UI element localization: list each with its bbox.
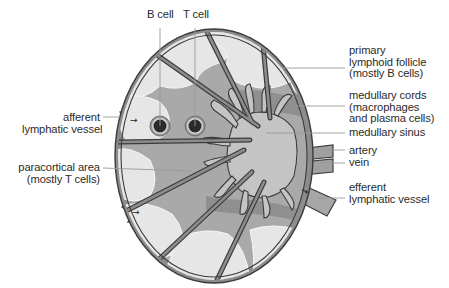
label-paracortical-area: paracortical area (mostly T cells)	[10, 162, 100, 185]
label-afferent-vessel: afferent lymphatic vessel	[22, 112, 100, 135]
label-efferent-vessel: efferent lymphatic vessel	[349, 182, 429, 205]
label-medullary-cords: medullary cords (macrophages and plasma …	[349, 90, 434, 125]
label-artery: artery	[349, 145, 377, 157]
label-t-cell: T cell	[183, 9, 209, 21]
lymph-node-diagram: → → → B cell T cell afferent lymphatic v…	[0, 0, 449, 288]
afferent-arrow-icon: →	[132, 207, 140, 217]
label-b-cell: B cell	[147, 9, 174, 21]
label-primary-lymphoid-follicle: primary lymphoid follicle (mostly B cell…	[349, 45, 426, 80]
label-medullary-sinus: medullary sinus	[349, 127, 425, 139]
afferent-arrow-icon: →	[130, 115, 138, 125]
label-vein: vein	[349, 157, 369, 169]
